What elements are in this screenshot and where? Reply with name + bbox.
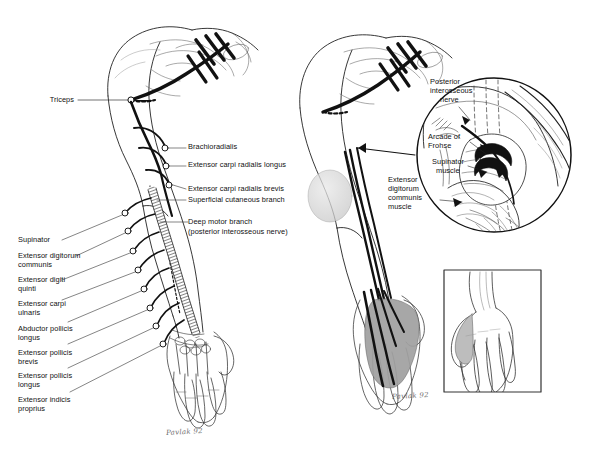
left-hand bbox=[167, 332, 234, 428]
right-radial-nerve-proximal bbox=[323, 42, 426, 114]
left-wrist-carpals bbox=[170, 330, 211, 355]
label-abductor-pollicis-longus-2: longus bbox=[18, 334, 40, 343]
left-triceps-marker bbox=[78, 97, 134, 103]
label-supinator-muscle-2: muscle bbox=[436, 167, 460, 176]
label-superficial-cutaneous-branch: Superficial cutaneous branch bbox=[188, 196, 285, 205]
label-deep-motor-branch: Deep motor branch bbox=[188, 218, 252, 227]
label-extensor-digiti-quinti-2: quinti bbox=[18, 285, 36, 294]
label-posterior-interosseous-nerve-3: nerve bbox=[440, 96, 459, 105]
left-radial-nerve-proximal bbox=[131, 34, 234, 102]
left-proximal-branches bbox=[134, 128, 169, 183]
label-supinator: Supinator bbox=[18, 236, 50, 245]
label-extensor-carpi-radialis-brevis: Extensor carpi radialis brevis bbox=[188, 185, 284, 194]
left-label-leaders bbox=[62, 215, 160, 392]
right-elbow-shade bbox=[308, 170, 352, 222]
illustration-root: Triceps Brachioradialis Extensor carpi r… bbox=[0, 0, 592, 454]
label-extensor-indicis-proprius-2: proprius bbox=[18, 405, 45, 414]
label-extensor-carpi-radialis-longus: Extensor carpi radialis longus bbox=[188, 161, 286, 170]
label-deep-motor-branch-sub: (posterior interosseous nerve) bbox=[188, 228, 288, 237]
hand-inset-box bbox=[444, 270, 541, 397]
label-extensor-digitorum-communis-2: communis bbox=[18, 261, 52, 270]
label-extensor-carpi-ulnaris-2: ulnaris bbox=[18, 309, 40, 318]
label-arcade-of-frohse-2: Frohse bbox=[428, 142, 451, 151]
label-extensor-pollicis-longus-2: longus bbox=[18, 381, 40, 390]
label-extensor-digitorum-communis-muscle-4: muscle bbox=[388, 203, 412, 212]
label-triceps: Triceps bbox=[8, 96, 74, 105]
magnifier-pointer-arrow bbox=[358, 143, 415, 155]
right-shoulder-detail bbox=[340, 41, 445, 104]
label-extensor-pollicis-brevis-2: brevis bbox=[18, 358, 38, 367]
label-brachioradialis: Brachioradialis bbox=[188, 143, 237, 152]
anatomy-plate bbox=[0, 0, 592, 454]
left-distal-branch-dots bbox=[122, 210, 166, 347]
